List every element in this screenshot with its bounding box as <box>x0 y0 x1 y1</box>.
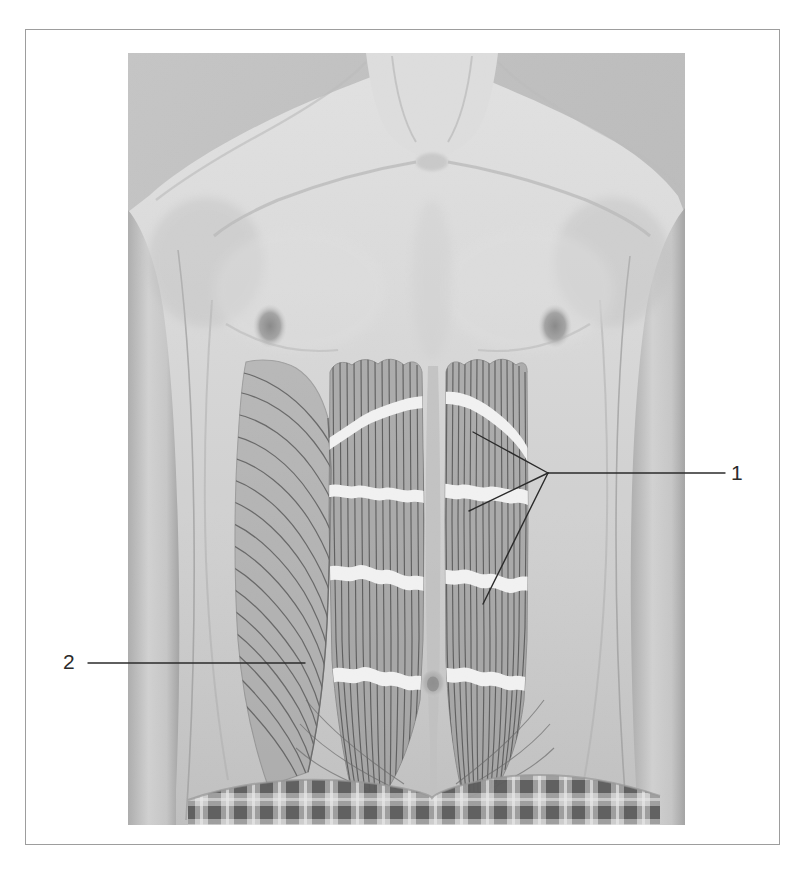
photo-grain <box>128 53 685 825</box>
figure-plate: 1 2 <box>0 0 806 874</box>
torso-photograph <box>128 53 690 825</box>
anatomy-figure-svg <box>0 0 806 874</box>
callout-label-2: 2 <box>63 651 75 672</box>
callout-label-1: 1 <box>731 462 743 483</box>
